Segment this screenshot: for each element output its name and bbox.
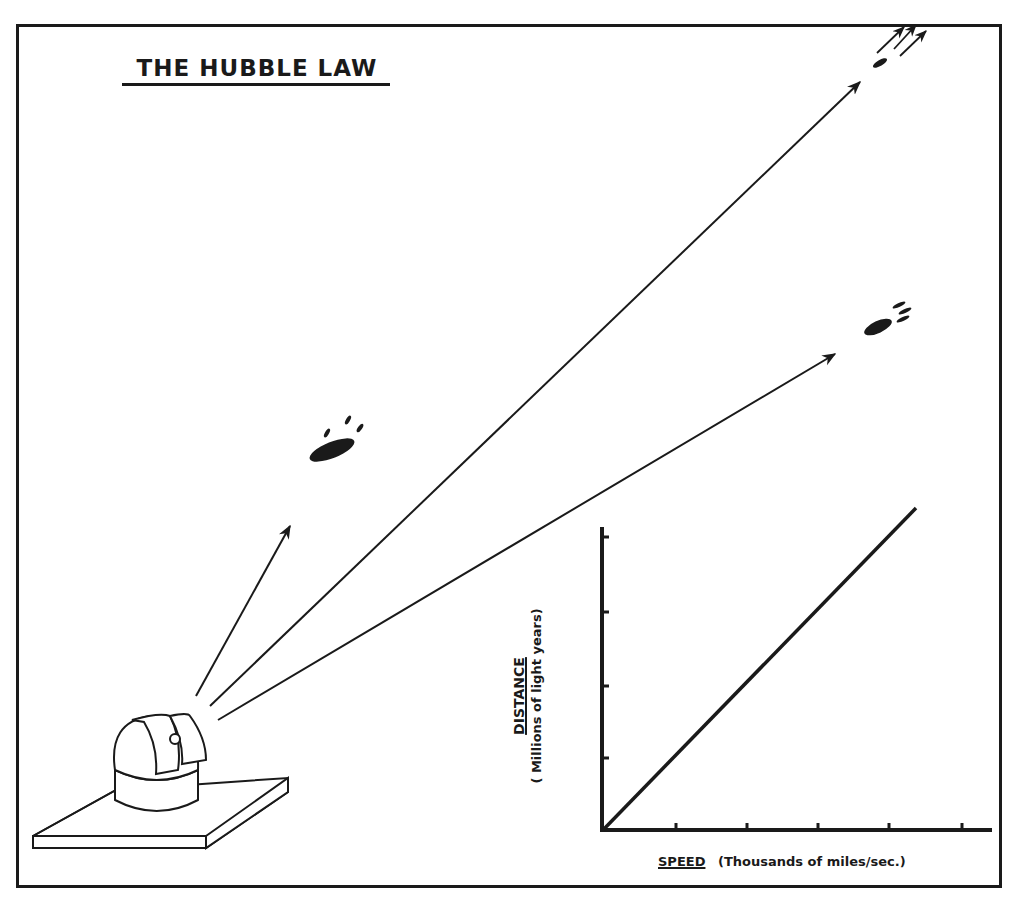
x-axis-label-unit: (Thousands of miles/sec.) [718, 854, 906, 869]
speed-distance-graph [600, 508, 992, 831]
near-galaxy-icon [307, 415, 365, 467]
mid-galaxy-icon [862, 300, 912, 339]
far-galaxy-icon [872, 25, 926, 70]
hubble-law-line [603, 508, 916, 830]
x-axis-label-key: SPEED [658, 854, 705, 869]
y-axis-label-key: DISTANCE [511, 608, 528, 783]
y-axis-label: DISTANCE ( Millions of light years) [511, 608, 545, 783]
observatory-icon [33, 714, 288, 848]
x-axis-label: SPEED (Thousands of miles/sec.) [658, 854, 906, 869]
y-axis-label-unit: ( Millions of light years) [529, 608, 544, 783]
arrow-near-galaxy [196, 526, 290, 696]
